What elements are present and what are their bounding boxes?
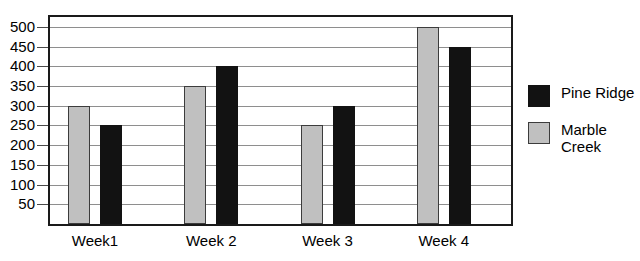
- y-tick-mark: [37, 47, 48, 48]
- y-tick-350: 350: [0, 78, 48, 94]
- y-tick-label: 50: [18, 196, 35, 212]
- bar-marble-creek-2: [184, 86, 206, 224]
- x-axis-label-1: Week1: [45, 232, 145, 250]
- y-tick-250: 250: [0, 117, 48, 133]
- bar-marble-creek-4: [417, 27, 439, 224]
- legend: Pine RidgeMarble Creek: [528, 84, 640, 169]
- legend-entry-marble[interactable]: Marble Creek: [528, 121, 640, 155]
- legend-label: Pine Ridge: [561, 84, 634, 101]
- y-tick-200: 200: [0, 137, 48, 153]
- bar-marble-creek-3: [301, 125, 323, 224]
- y-tick-450: 450: [0, 39, 48, 55]
- gridline-350: [50, 86, 511, 87]
- y-tick-label: 250: [10, 117, 35, 133]
- y-tick-mark: [37, 185, 48, 186]
- gridline-300: [50, 106, 511, 107]
- y-tick-label: 100: [10, 177, 35, 193]
- y-tick-mark: [37, 86, 48, 87]
- y-tick-label: 300: [10, 98, 35, 114]
- bar-pine-ridge-3: [333, 106, 355, 224]
- legend-swatch-icon-marble: [528, 122, 550, 144]
- gridline-400: [50, 66, 511, 67]
- y-tick-label: 400: [10, 58, 35, 74]
- x-axis-label-4: Week 4: [394, 232, 494, 250]
- legend-label: Marble Creek: [561, 121, 607, 155]
- y-tick-mark: [37, 204, 48, 205]
- legend-swatch-icon-pine: [528, 85, 550, 107]
- y-tick-400: 400: [0, 58, 48, 74]
- y-tick-mark: [37, 106, 48, 107]
- y-tick-label: 150: [10, 157, 35, 173]
- x-axis-label-2: Week 2: [161, 232, 261, 250]
- bar-pine-ridge-1: [100, 125, 122, 224]
- y-tick-150: 150: [0, 157, 48, 173]
- y-tick-label: 450: [10, 39, 35, 55]
- gridline-500: [50, 27, 511, 28]
- y-tick-mark: [37, 27, 48, 28]
- bar-chart: 50045040035030025020015010050 Week1Week …: [0, 0, 640, 261]
- cropped-title-remnant: [60, 0, 360, 2]
- y-tick-label: 200: [10, 137, 35, 153]
- y-tick-50: 50: [0, 196, 48, 212]
- plot-area: [48, 15, 513, 226]
- bar-pine-ridge-4: [449, 47, 471, 224]
- y-tick-mark: [37, 145, 48, 146]
- legend-entry-pine[interactable]: Pine Ridge: [528, 84, 640, 107]
- y-axis: 50045040035030025020015010050: [0, 0, 48, 261]
- y-tick-300: 300: [0, 98, 48, 114]
- bar-marble-creek-1: [68, 106, 90, 224]
- y-tick-mark: [37, 165, 48, 166]
- y-tick-label: 500: [10, 19, 35, 35]
- y-tick-mark: [37, 125, 48, 126]
- y-tick-mark: [37, 66, 48, 67]
- x-axis-label-3: Week 3: [278, 232, 378, 250]
- y-tick-100: 100: [0, 177, 48, 193]
- y-tick-label: 350: [10, 78, 35, 94]
- gridline-450: [50, 47, 511, 48]
- bar-pine-ridge-2: [216, 66, 238, 224]
- y-tick-500: 500: [0, 19, 48, 35]
